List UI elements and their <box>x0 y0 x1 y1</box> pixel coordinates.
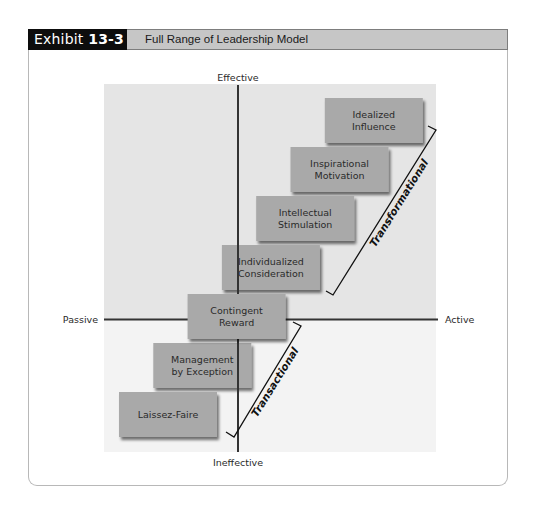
boxes-overlay: ContingentReward <box>188 294 286 339</box>
box-management-by-exception-label-line: Management <box>171 354 234 365</box>
box-individualized-consideration-label-line: Individualized <box>238 256 304 267</box>
box-individualized-consideration-label-line: Consideration <box>238 268 304 279</box>
axis-label-active: Active <box>445 314 475 325</box>
box-management-by-exception-label-line: by Exception <box>172 366 233 377</box>
axis-label-passive: Passive <box>63 314 98 325</box>
box-inspirational-motivation: InspirationalMotivation <box>291 147 389 192</box>
box-management-by-exception: Managementby Exception <box>153 343 251 388</box>
box-laissez-faire-label-line: Laissez-Faire <box>138 409 199 420</box>
box-contingent-reward: ContingentReward <box>188 294 286 339</box>
leadership-model-diagram: IdealizedInfluenceInspirationalMotivatio… <box>0 0 534 511</box>
box-intellectual-stimulation: IntellectualStimulation <box>256 196 354 241</box>
box-contingent-reward-label-line: Reward <box>219 317 254 328</box>
box-intellectual-stimulation-label-line: Intellectual <box>279 207 332 218</box>
box-individualized-consideration: IndividualizedConsideration <box>222 245 320 290</box>
box-laissez-faire: Laissez-Faire <box>119 392 217 437</box>
box-idealized-influence-label-line: Influence <box>352 121 396 132</box>
box-idealized-influence: IdealizedInfluence <box>325 98 423 143</box>
box-idealized-influence-label-line: Idealized <box>352 109 395 120</box>
box-inspirational-motivation-label-line: Inspirational <box>310 158 369 169</box>
box-intellectual-stimulation-label-line: Stimulation <box>278 219 332 230</box>
axis-label-effective: Effective <box>217 72 259 83</box>
box-contingent-reward-label-line: Contingent <box>210 305 263 316</box>
axis-label-ineffective: Ineffective <box>213 457 263 468</box>
box-inspirational-motivation-label-line: Motivation <box>314 170 364 181</box>
